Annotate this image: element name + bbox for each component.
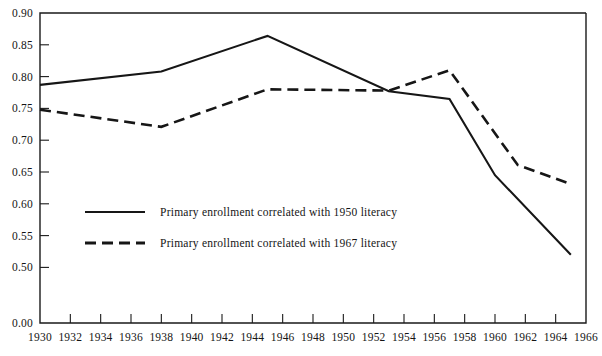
x-tick-label-1960: 1960 <box>483 331 507 343</box>
x-tick-label-1966: 1966 <box>574 331 598 343</box>
y-tick-label-0.70: 0.70 <box>12 134 33 146</box>
y-tick-label-0.60: 0.60 <box>12 198 33 210</box>
y-axis-ticks <box>40 45 49 268</box>
chart-canvas: 0.900.850.800.750.700.650.600.550.500.00… <box>0 0 602 356</box>
legend-label-2: Primary enrollment correlated with 1967 … <box>160 237 397 250</box>
x-tick-label-1952: 1952 <box>362 331 386 343</box>
x-axis-ticks <box>70 314 555 323</box>
y-tick-label-0.65: 0.65 <box>12 166 33 178</box>
y-tick-label-0.55: 0.55 <box>12 230 33 242</box>
y-axis-tick-labels: 0.900.850.800.750.700.650.600.550.500.00 <box>12 7 33 329</box>
x-tick-label-1930: 1930 <box>28 331 52 343</box>
chart-legend: Primary enrollment correlated with 1950 … <box>85 206 397 250</box>
x-tick-label-1948: 1948 <box>301 331 325 343</box>
axis-frame <box>40 13 586 323</box>
line-chart: 0.900.850.800.750.700.650.600.550.500.00… <box>0 0 602 356</box>
y-tick-label-0.50: 0.50 <box>12 261 33 273</box>
x-tick-label-1940: 1940 <box>180 331 204 343</box>
x-tick-label-1942: 1942 <box>210 331 234 343</box>
x-tick-label-1950: 1950 <box>331 331 355 343</box>
y-tick-label-0.85: 0.85 <box>12 39 33 51</box>
x-tick-label-1934: 1934 <box>89 331 113 343</box>
x-tick-label-1932: 1932 <box>58 331 82 343</box>
x-tick-label-1962: 1962 <box>513 331 537 343</box>
x-tick-label-1944: 1944 <box>240 331 264 343</box>
x-tick-label-1954: 1954 <box>392 331 416 343</box>
legend-label-1: Primary enrollment correlated with 1950 … <box>160 206 397 219</box>
x-tick-label-1946: 1946 <box>271 331 295 343</box>
x-axis-tick-labels: 1930193219341936193819401942194419461948… <box>28 331 598 343</box>
series-line-1950-literacy <box>40 36 571 255</box>
x-tick-label-1958: 1958 <box>453 331 477 343</box>
y-tick-label-0.90: 0.90 <box>12 7 33 19</box>
x-tick-label-1964: 1964 <box>544 331 568 343</box>
x-tick-label-1938: 1938 <box>149 331 173 343</box>
x-tick-label-1936: 1936 <box>119 331 143 343</box>
y-tick-label-0.75: 0.75 <box>12 102 33 114</box>
y-tick-label-0.00: 0.00 <box>12 317 33 329</box>
x-tick-label-1956: 1956 <box>422 331 446 343</box>
y-tick-label-0.80: 0.80 <box>12 71 33 83</box>
